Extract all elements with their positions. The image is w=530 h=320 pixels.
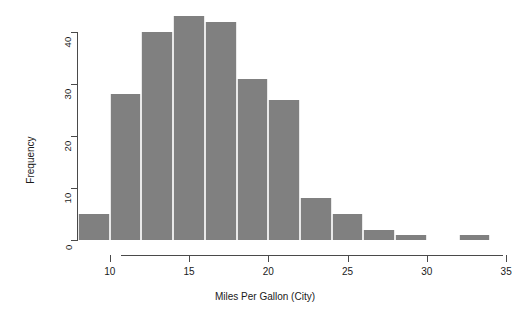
histogram-bar bbox=[173, 16, 205, 240]
histogram-bar bbox=[141, 32, 173, 240]
x-tick-label: 30 bbox=[407, 266, 447, 277]
y-tick-label-wrap: 10 bbox=[0, 182, 68, 194]
y-tick-label-wrap: 0 bbox=[0, 234, 68, 246]
x-tick-mark bbox=[268, 255, 269, 262]
x-tick-label: 20 bbox=[248, 266, 288, 277]
y-tick-label: 30 bbox=[63, 89, 74, 100]
histogram-bar bbox=[205, 22, 237, 240]
y-tick-label: 0 bbox=[63, 245, 74, 250]
histogram-bar bbox=[78, 214, 110, 240]
y-tick-mark bbox=[71, 84, 78, 85]
x-tick-mark bbox=[189, 255, 190, 262]
histogram-bar bbox=[110, 94, 142, 240]
y-axis-title: Frequency bbox=[25, 136, 36, 183]
x-tick-label: 10 bbox=[90, 266, 130, 277]
x-tick-mark bbox=[110, 255, 111, 262]
histogram-bar bbox=[459, 235, 491, 240]
y-tick-label-wrap: 30 bbox=[0, 78, 68, 90]
x-tick-mark bbox=[506, 255, 507, 262]
y-tick-mark bbox=[71, 240, 78, 241]
x-axis-title: Miles Per Gallon (City) bbox=[0, 291, 530, 302]
x-tick-label: 25 bbox=[328, 266, 368, 277]
y-tick-mark bbox=[71, 136, 78, 137]
histogram-plot: 010203040 Frequency 101520253035 Miles P… bbox=[0, 0, 530, 320]
y-tick-label: 40 bbox=[63, 37, 74, 48]
histogram-bar bbox=[332, 214, 364, 240]
y-tick-mark bbox=[71, 32, 78, 33]
x-tick-label: 35 bbox=[486, 266, 526, 277]
y-tick-label: 20 bbox=[63, 141, 74, 152]
histogram-bar bbox=[363, 230, 395, 240]
x-tick-label: 15 bbox=[169, 266, 209, 277]
y-tick-label-wrap: 40 bbox=[0, 26, 68, 38]
x-tick-mark bbox=[427, 255, 428, 262]
y-tick-label: 10 bbox=[63, 193, 74, 204]
histogram-bar bbox=[268, 100, 300, 240]
histogram-bar bbox=[395, 235, 427, 240]
histogram-bar bbox=[300, 198, 332, 240]
y-tick-mark bbox=[71, 188, 78, 189]
plot-area bbox=[78, 14, 522, 240]
x-axis-line bbox=[121, 255, 503, 256]
x-tick-mark bbox=[348, 255, 349, 262]
histogram-bar bbox=[237, 79, 269, 240]
